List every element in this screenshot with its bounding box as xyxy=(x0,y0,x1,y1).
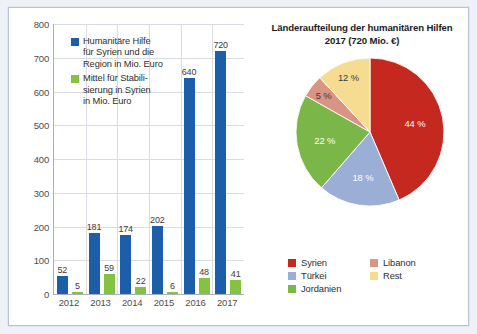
bar-value-label: 52 xyxy=(58,265,68,275)
bar-value-label: 41 xyxy=(231,269,241,279)
bar-value-label: 5 xyxy=(75,281,80,291)
bar-value-label: 202 xyxy=(150,215,164,225)
legend-swatch-icon xyxy=(370,272,378,280)
bar-value-label: 174 xyxy=(118,224,132,234)
pie-slice-value-label: 12 % xyxy=(338,71,359,82)
pie-legend-column: SyrienTürkeiJordanien xyxy=(288,256,341,295)
pie-chart: Länderaufteilung der humanitären Hilfen … xyxy=(252,16,472,318)
y-axis-tick-label: 600 xyxy=(34,86,49,97)
legend-swatch-icon xyxy=(370,259,378,267)
pie-chart-graphic: 44 %18 %22 %5 %12 % xyxy=(296,58,444,206)
bar-2017-stabilisierung xyxy=(230,280,241,294)
pie-legend-column: LibanonRest xyxy=(370,256,416,282)
bar-legend-label: Mittel für Stabili- sierung in Syrien in… xyxy=(83,73,151,107)
pie-legend-item-türkei: Türkei xyxy=(288,269,341,282)
x-axis-tick-label: 2017 xyxy=(217,297,237,308)
pie-slice-value-label: 44 % xyxy=(404,117,425,128)
bar-legend-label: Humanitäre Hilfe für Syrien und die Regi… xyxy=(83,36,163,70)
pie-slice-value-label: 18 % xyxy=(352,172,373,183)
y-axis-tick-label: 300 xyxy=(34,187,49,198)
legend-swatch-icon xyxy=(288,285,296,293)
figure-frame: 0100200300400500600700800 52518159174222… xyxy=(8,7,469,326)
y-axis-tick-label: 400 xyxy=(34,154,49,165)
x-axis-tick-label: 2016 xyxy=(185,297,205,308)
pie-legend-label: Türkei xyxy=(301,270,326,281)
pie-legend-item-jordanien: Jordanien xyxy=(288,282,341,295)
legend-swatch-icon xyxy=(288,272,296,280)
bar-legend-item-humanitaere_hilfe: Humanitäre Hilfe für Syrien und die Regi… xyxy=(71,36,199,70)
pie-legend-label: Libanon xyxy=(383,257,416,268)
pie-chart-svg xyxy=(296,58,444,206)
bar-2012-humanitaere-hilfe xyxy=(57,276,68,294)
legend-swatch-icon xyxy=(288,259,296,267)
y-axis-tick-label: 0 xyxy=(44,289,49,300)
y-axis-tick-label: 200 xyxy=(34,221,49,232)
y-axis-tick-label: 100 xyxy=(34,255,49,266)
x-axis-tick-label: 2015 xyxy=(154,297,174,308)
bar-2016-stabilisierung xyxy=(199,278,210,294)
bar-2015-humanitaere-hilfe xyxy=(152,226,163,294)
legend-swatch-icon xyxy=(71,38,79,46)
bar-2013-humanitaere-hilfe xyxy=(89,233,100,294)
pie-legend-item-libanon: Libanon xyxy=(370,256,416,269)
x-axis-tick-label: 2013 xyxy=(90,297,110,308)
pie-legend-item-rest: Rest xyxy=(370,269,416,282)
y-axis-tick-label: 800 xyxy=(34,19,49,30)
pie-legend-item-syrien: Syrien xyxy=(288,256,341,269)
bar-value-label: 181 xyxy=(87,222,101,232)
legend-swatch-icon xyxy=(71,75,79,83)
pie-legend-label: Jordanien xyxy=(301,283,341,294)
pie-legend-label: Syrien xyxy=(301,257,327,268)
figure-page: 0100200300400500600700800 52518159174222… xyxy=(0,0,477,334)
bar-value-label: 48 xyxy=(199,267,209,277)
x-axis-tick-label: 2012 xyxy=(59,297,79,308)
bar-value-label: 59 xyxy=(104,263,114,273)
bar-chart-legend: Humanitäre Hilfe für Syrien und die Regi… xyxy=(71,36,199,110)
bar-2017-humanitaere-hilfe xyxy=(215,51,226,294)
bar-2013-stabilisierung xyxy=(104,274,115,294)
bar-chart: 0100200300400500600700800 52518159174222… xyxy=(19,16,247,318)
y-axis-tick-label: 500 xyxy=(34,120,49,131)
pie-chart-title: Länderaufteilung der humanitären Hilfen … xyxy=(252,22,472,47)
bar-chart-y-axis: 0100200300400500600700800 xyxy=(19,16,49,302)
x-axis-tick-label: 2014 xyxy=(122,297,142,308)
pie-slice-value-label: 22 % xyxy=(314,134,335,145)
bar-value-label: 720 xyxy=(213,40,227,50)
bar-2012-stabilisierung xyxy=(72,292,83,294)
bar-value-label: 6 xyxy=(170,281,175,291)
bar-2014-stabilisierung xyxy=(135,287,146,294)
gridline-vertical xyxy=(212,24,213,294)
pie-slice-value-label: 5 % xyxy=(316,90,332,101)
bar-2014-humanitaere-hilfe xyxy=(120,235,131,294)
pie-legend-label: Rest xyxy=(383,270,402,281)
bar-value-label: 22 xyxy=(136,276,146,286)
bar-2015-stabilisierung xyxy=(167,292,178,294)
y-axis-tick-label: 700 xyxy=(34,52,49,63)
bar-legend-item-stabilisierung: Mittel für Stabili- sierung in Syrien in… xyxy=(71,73,199,107)
